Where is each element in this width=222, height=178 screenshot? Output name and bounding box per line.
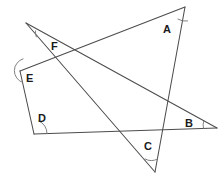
vertex-label-a: A — [163, 24, 171, 35]
vertex-label-d: D — [38, 113, 46, 124]
angle-arc-b — [203, 121, 204, 128]
vertex-label-b: B — [185, 118, 193, 129]
vertex-label-c: C — [144, 141, 152, 152]
segment-e-a — [20, 7, 185, 71]
geometry-figure: A B C D E F — [0, 0, 222, 178]
segment-f-b — [26, 23, 217, 128]
angle-arc-c — [145, 159, 157, 161]
segment-group — [20, 7, 217, 172]
geometry-canvas — [0, 0, 222, 178]
segment-f-c — [26, 23, 155, 172]
angle-arc-group — [14, 19, 203, 160]
vertex-label-f: F — [51, 41, 58, 52]
angle-arc-f — [35, 31, 36, 37]
vertex-label-e: E — [26, 73, 33, 84]
